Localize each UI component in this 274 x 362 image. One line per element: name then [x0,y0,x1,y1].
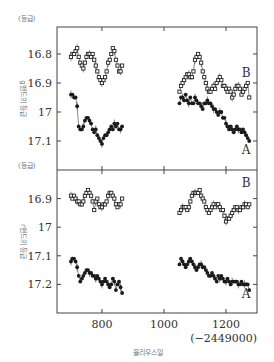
y-tick-label: 17.1 [28,250,53,263]
y-tick-label: 16.8 [28,48,53,61]
y-tick-label: 17 [38,106,52,119]
y-tick-label: 16.9 [28,77,53,90]
y-tick-label: 16.9 [28,193,53,206]
light-curve-chart: 16.816.91717.1(등급)g밴드의 등급BA 16.91717.117… [0,0,274,362]
g-band-panel: 16.816.91717.1(등급)g밴드의 등급BA [18,15,257,157]
x-axis: 800 1000 1200 (−2449000) 율리우스일 [91,318,257,357]
series-label-A: A [241,287,251,301]
series-B: B [69,176,250,226]
y-tick-label: 17.1 [28,135,53,148]
series-A: A [69,91,251,157]
y-unit-label: (등급) [18,15,36,23]
x-offset-label: (−2449000) [190,332,257,345]
r-band-panel: 16.91717.117.2(등급)r밴드의 등급BA [18,162,257,301]
x-tick-1000: 1000 [150,318,178,331]
y-axis-title: r밴드의 등급 [19,224,28,260]
y-unit-label: (등급) [18,162,36,170]
x-tick-800: 800 [91,318,112,331]
y-axis-title: g밴드의 등급 [19,80,28,118]
series-label-A: A [241,143,251,157]
series-label-B: B [242,176,251,190]
y-tick-label: 17 [38,221,52,234]
x-axis-title: 율리우스일 [133,348,163,357]
series-label-B: B [242,66,251,80]
y-tick-label: 17.2 [28,278,53,291]
series-B: B [69,44,250,101]
x-tick-1200: 1200 [212,318,240,331]
series-A: A [69,257,251,302]
